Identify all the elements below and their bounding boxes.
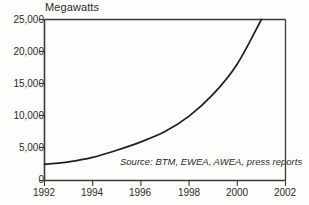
chart-plot-area — [0, 0, 309, 205]
y-tick-marks — [39, 20, 45, 181]
chart-figure: Megawatts 25,000 20,000 15,000 10,000 5,… — [0, 0, 309, 205]
data-series-line — [45, 20, 262, 165]
x-tick-marks — [45, 181, 286, 187]
